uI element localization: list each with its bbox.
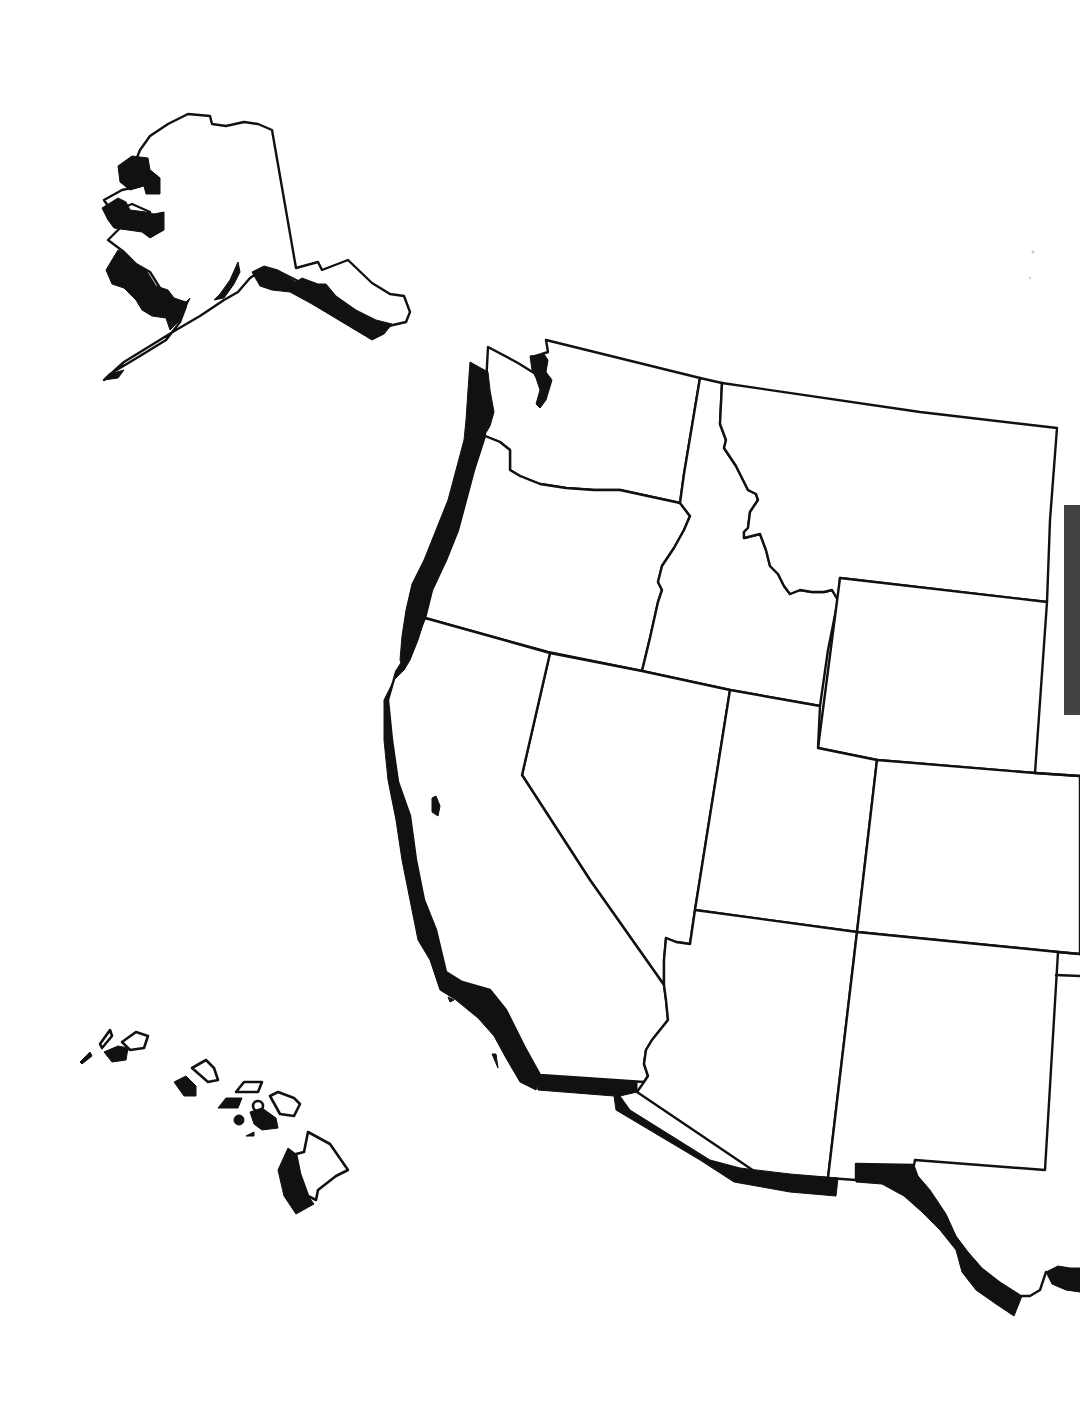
hawaii-kauai-shelf — [104, 1046, 128, 1062]
hawaii — [80, 1030, 348, 1214]
western-us-outline-map — [0, 0, 1080, 1401]
state-wyoming[interactable] — [818, 578, 1047, 773]
scan-speck — [1032, 251, 1035, 254]
contiguous-western-states — [384, 340, 1080, 1316]
state-alaska[interactable] — [104, 114, 410, 380]
hawaii-oahu[interactable] — [192, 1060, 218, 1082]
alaska — [102, 114, 410, 380]
hawaii-maui-shelf — [250, 1108, 278, 1130]
hawaii-kauai[interactable] — [122, 1032, 148, 1050]
rio-grande-shelf-tail — [1046, 1266, 1080, 1292]
hawaii-niihau[interactable] — [100, 1030, 112, 1048]
hawaii-lanai — [234, 1115, 244, 1125]
hawaii-kahoolawe — [246, 1132, 254, 1136]
channel-island-4 — [492, 1054, 498, 1068]
hawaii-maui[interactable] — [270, 1092, 300, 1116]
hawaii-molokai[interactable] — [236, 1082, 262, 1092]
hawaii-molokai-shelf — [218, 1098, 242, 1108]
mexico-border-shelf-east — [856, 1164, 1022, 1316]
state-colorado[interactable] — [857, 760, 1080, 954]
scan-speck — [1029, 277, 1031, 279]
state-new-mexico[interactable] — [828, 932, 1058, 1180]
oklahoma-panhandle-border — [1056, 952, 1080, 976]
texas-border — [1022, 1272, 1046, 1296]
scan-shadow-bar — [1064, 505, 1080, 715]
hawaii-oahu-shelf — [174, 1076, 196, 1096]
hawaii-niihau-shelf — [80, 1052, 92, 1064]
